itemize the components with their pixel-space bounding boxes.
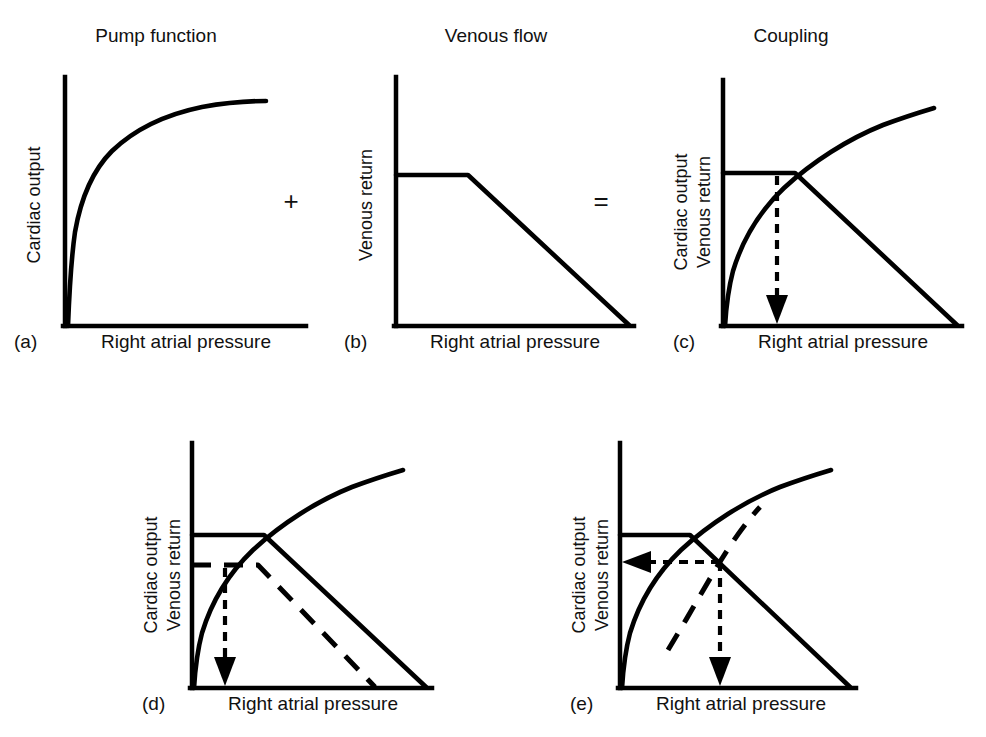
panel-c-y-axis-label-line-1: Cardiac output — [671, 153, 691, 270]
panel-c: Coupling Cardiac output Venous return (c… — [671, 25, 962, 352]
panel-e-y-axis-label-line-2: Venous return — [592, 519, 612, 631]
panel-c-title: Coupling — [754, 25, 829, 46]
panel-a-letter: (a) — [14, 331, 37, 352]
panel-e: Cardiac output Venous return (e) Right a… — [569, 443, 856, 714]
panel-a-y-axis-label-line-1: Cardiac output — [24, 146, 44, 263]
panel-a-y-axis-label: Cardiac output — [24, 146, 44, 263]
panel-e-y-axis-label: Cardiac output Venous return — [569, 516, 612, 633]
panel-e-letter: (e) — [570, 693, 593, 714]
panel-e-cardiac-output-decrease-arrow-head — [622, 551, 651, 573]
panel-e-y-axis-label-line-1: Cardiac output — [569, 516, 589, 633]
panel-c-x-axis-label: Right atrial pressure — [758, 331, 928, 352]
panel-b-letter: (b) — [344, 331, 367, 352]
panel-b-y-axis-label: Venous return — [356, 149, 376, 261]
panel-e-x-axis-label: Right atrial pressure — [656, 693, 826, 714]
panel-b-title: Venous flow — [445, 25, 548, 46]
panel-a: Pump function Cardiac output (a) Right a… — [14, 25, 306, 352]
panel-c-operating-point-arrow-head — [766, 295, 788, 324]
panel-d-y-axis-label-line-2: Venous return — [164, 519, 184, 631]
panel-b-x-axis-label: Right atrial pressure — [430, 331, 600, 352]
cardiac-coupling-figure: Pump function Cardiac output (a) Right a… — [0, 0, 986, 737]
panel-a-x-axis-label: Right atrial pressure — [101, 331, 271, 352]
panel-e-venous-return-curve — [620, 535, 850, 687]
panel-d-y-axis-label-line-1: Cardiac output — [141, 516, 161, 633]
panel-c-y-axis-label: Cardiac output Venous return — [671, 153, 714, 270]
panel-a-pump-function-curve — [68, 101, 266, 326]
panel-d: Cardiac output Venous return (d) Right a… — [141, 443, 432, 714]
panel-c-y-axis-label-line-2: Venous return — [694, 156, 714, 268]
figure-root: Pump function Cardiac output (a) Right a… — [0, 0, 986, 737]
panel-e-pump-function-curve-depressed — [668, 507, 760, 650]
panel-d-y-axis-label: Cardiac output Venous return — [141, 516, 184, 633]
panel-b: Venous flow Venous return (b) Right atri… — [344, 25, 634, 352]
panel-c-pump-function-curve — [725, 108, 934, 326]
panel-d-operating-point-arrow-head — [214, 657, 236, 686]
panel-c-letter: (c) — [673, 331, 695, 352]
panel-d-letter: (d) — [142, 693, 165, 714]
panel-d-x-axis-label: Right atrial pressure — [228, 693, 398, 714]
plus-operator: + — [283, 186, 298, 216]
equals-operator: = — [593, 186, 608, 216]
panel-b-y-axis-label-line-1: Venous return — [356, 149, 376, 261]
panel-e-right-atrial-pressure-arrow-head — [709, 657, 731, 686]
panel-a-title: Pump function — [95, 25, 216, 46]
panel-e-pump-function-curve — [622, 470, 831, 688]
panel-c-venous-return-curve — [723, 173, 957, 325]
